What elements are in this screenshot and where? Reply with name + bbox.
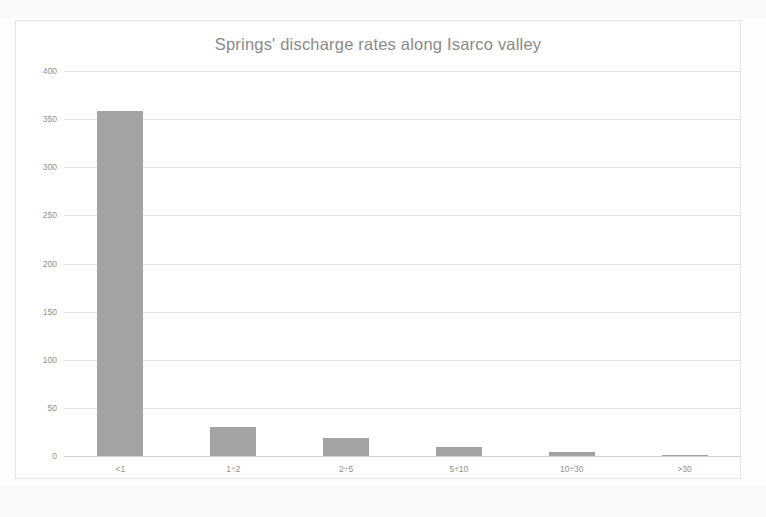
plot-area: 050100150200250300350400 <11÷22÷55÷1010÷… xyxy=(64,71,741,456)
y-axis-tick-label: 300 xyxy=(43,162,57,172)
x-axis-tick-label: 5÷10 xyxy=(449,464,468,474)
chart-title: Springs' discharge rates along Isarco va… xyxy=(16,35,740,54)
y-axis-tick-label: 250 xyxy=(43,210,57,220)
x-tick-slot: 2÷5 xyxy=(290,71,403,456)
page-background: Springs' discharge rates along Isarco va… xyxy=(0,0,766,517)
x-tick-slot: >30 xyxy=(628,71,741,456)
x-tick-slot: 10÷30 xyxy=(515,71,628,456)
gridline xyxy=(64,456,741,457)
x-axis-tick-label: 2÷5 xyxy=(339,464,353,474)
y-axis-tick-label: 150 xyxy=(43,307,57,317)
y-axis-tick-label: 400 xyxy=(43,66,57,76)
x-axis-tick-label: 1÷2 xyxy=(226,464,240,474)
x-tick-slot: 5÷10 xyxy=(403,71,516,456)
scan-artifact-bottom xyxy=(0,486,766,517)
y-axis-tick-label: 350 xyxy=(43,114,57,124)
x-axis-tick-label: 10÷30 xyxy=(560,464,584,474)
x-axis-tick-label: <1 xyxy=(116,464,126,474)
y-axis-tick-label: 50 xyxy=(48,403,57,413)
x-tick-slot: 1÷2 xyxy=(177,71,290,456)
x-tick-slot: <1 xyxy=(64,71,177,456)
y-axis-tick-label: 100 xyxy=(43,355,57,365)
x-axis-tick-label: >30 xyxy=(677,464,691,474)
scan-artifact-top xyxy=(0,0,766,18)
y-axis-tick-label: 0 xyxy=(52,451,57,461)
y-axis-tick-label: 200 xyxy=(43,259,57,269)
chart-frame: Springs' discharge rates along Isarco va… xyxy=(15,20,741,479)
